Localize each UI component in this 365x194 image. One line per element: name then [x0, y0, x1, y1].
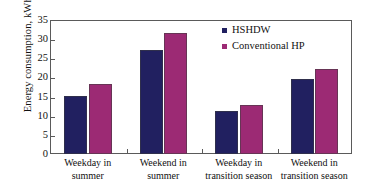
x-axis-category-label: Weekend intransition season: [273, 157, 357, 182]
y-axis-tick-label: 15: [26, 92, 48, 102]
legend-item: Conventional HP: [222, 39, 305, 53]
x-axis-category-labels: Weekday insummerWeekend insummerWeekday …: [50, 157, 352, 191]
legend-label: Conventional HP: [232, 39, 305, 53]
category-label-line2: transition season: [273, 170, 357, 183]
bar-group: [126, 20, 202, 154]
category-label-line2: summer: [46, 170, 130, 183]
bar: [64, 96, 87, 154]
y-axis-tick-label: 10: [26, 111, 48, 121]
y-axis-tick-label: 20: [26, 72, 48, 82]
legend-label: HSHDW: [232, 23, 271, 37]
y-axis-tick-label: 35: [26, 15, 48, 25]
y-axis-tick-label: 30: [26, 34, 48, 44]
bar-chart: Energy consumption, kWh/day 051015202530…: [0, 0, 365, 194]
y-axis-tick-labels: 05101520253035: [26, 20, 48, 154]
y-axis-tick-label: 0: [26, 149, 48, 159]
category-label-line1: Weekday in: [197, 157, 281, 170]
x-axis-category-label: Weekday insummer: [46, 157, 130, 182]
category-label-line1: Weekday in: [46, 157, 130, 170]
bar: [240, 105, 263, 154]
bar: [315, 69, 338, 154]
category-label-line1: Weekend in: [122, 157, 206, 170]
y-axis-tick-label: 5: [26, 130, 48, 140]
bar: [89, 84, 112, 154]
y-axis-tick-label: 25: [26, 53, 48, 63]
bar: [215, 111, 238, 154]
x-axis-category-label: Weekend insummer: [122, 157, 206, 182]
legend-swatch-icon: [222, 44, 227, 49]
bar: [291, 79, 314, 154]
category-label-line2: summer: [122, 170, 206, 183]
bar-group: [50, 20, 126, 154]
bars-layer: [50, 20, 352, 154]
chart-legend: HSHDWConventional HP: [222, 23, 305, 55]
legend-item: HSHDW: [222, 23, 305, 37]
category-label-line1: Weekend in: [273, 157, 357, 170]
legend-swatch-icon: [222, 28, 227, 33]
category-label-line2: transition season: [197, 170, 281, 183]
x-axis-category-label: Weekday intransition season: [197, 157, 281, 182]
bar: [140, 50, 163, 154]
bar: [164, 33, 187, 154]
